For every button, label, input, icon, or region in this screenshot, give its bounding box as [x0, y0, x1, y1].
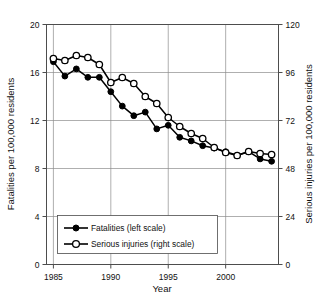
data-point: [222, 149, 228, 155]
y-tick-label-right: 96: [286, 68, 296, 78]
y-tick-label-right: 0: [286, 260, 291, 270]
y-axis-right-title: Serious injuries per 100,000 residents: [303, 64, 314, 224]
x-tick-label: 2000: [216, 272, 235, 282]
y-tick-label-left: 20: [30, 20, 40, 30]
data-point: [85, 54, 91, 60]
data-point: [177, 123, 183, 129]
data-point: [154, 126, 160, 132]
legend-marker: [73, 225, 79, 231]
figure-background: [0, 0, 324, 306]
data-point: [96, 74, 102, 80]
data-point: [165, 114, 171, 120]
y-tick-label-right: 72: [286, 116, 296, 126]
x-tick-label: 1995: [159, 272, 178, 282]
data-point: [131, 113, 137, 119]
data-point: [108, 79, 114, 85]
data-point: [177, 134, 183, 140]
data-point: [119, 103, 125, 109]
data-point: [142, 109, 148, 115]
data-point: [50, 55, 56, 61]
data-point: [269, 158, 275, 164]
data-point: [62, 73, 68, 79]
legend-label: Fatalities (left scale): [91, 223, 166, 233]
y-tick-label-right: 120: [286, 20, 300, 30]
data-point: [85, 74, 91, 80]
y-tick-label-left: 8: [35, 164, 40, 174]
data-point: [245, 148, 251, 154]
y-tick-label-left: 16: [30, 68, 40, 78]
data-point: [165, 122, 171, 128]
data-point: [200, 135, 206, 141]
y-tick-label-right: 24: [286, 212, 296, 222]
data-point: [73, 52, 79, 58]
y-tick-label-left: 12: [30, 116, 40, 126]
data-point: [154, 100, 160, 106]
data-point: [108, 89, 114, 95]
y-tick-label-right: 48: [286, 164, 296, 174]
data-point: [257, 150, 263, 156]
x-tick-label: 1985: [44, 272, 63, 282]
data-point: [188, 130, 194, 136]
data-point: [73, 66, 79, 72]
data-point: [62, 57, 68, 63]
data-point: [268, 151, 274, 157]
data-point: [200, 143, 206, 149]
data-point: [234, 152, 240, 158]
line-chart-figure: 1985199019952000 048121620 024487296120 …: [0, 0, 324, 306]
data-point: [142, 93, 148, 99]
x-tick-label: 1990: [101, 272, 120, 282]
y-tick-label-left: 0: [35, 260, 40, 270]
legend-marker: [73, 241, 80, 248]
data-point: [188, 138, 194, 144]
y-axis-left-title: Fatalities per 100,000 residents: [5, 77, 16, 210]
legend-label: Serious injuries (right scale): [91, 239, 195, 249]
data-point: [96, 61, 102, 67]
data-point: [119, 74, 125, 80]
y-tick-label-left: 4: [35, 212, 40, 222]
data-point: [211, 144, 217, 150]
x-axis-title: Year: [152, 283, 171, 294]
chart-legend: Fatalities (left scale)Serious injuries …: [58, 216, 218, 254]
data-point: [131, 80, 137, 86]
chart-container: 1985199019952000 048121620 024487296120 …: [0, 0, 324, 306]
